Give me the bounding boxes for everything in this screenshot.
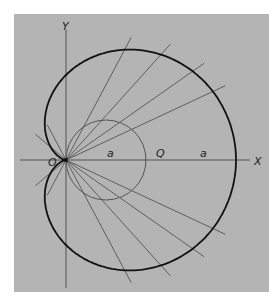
chord-line	[66, 160, 226, 234]
point-q-label: Q	[156, 147, 165, 160]
segment-a-inner-label: a	[107, 147, 114, 160]
cardioid-diagram: Y X O Q a a	[0, 0, 280, 306]
y-axis-label: Y	[62, 20, 70, 33]
origin-label: O	[48, 156, 57, 169]
chord-line	[66, 160, 204, 257]
chord-line	[66, 63, 204, 160]
x-axis-label: X	[253, 155, 262, 168]
origin-point	[64, 158, 68, 162]
segment-a-outer-label: a	[200, 147, 207, 160]
